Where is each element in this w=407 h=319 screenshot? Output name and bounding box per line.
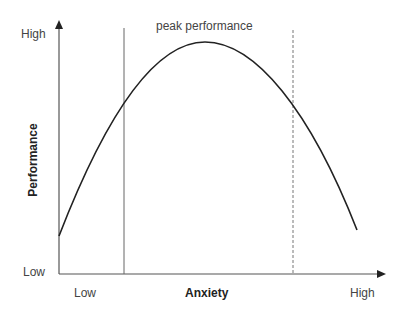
y-high-label: High xyxy=(21,27,46,41)
y-axis-arrow-icon xyxy=(55,20,63,29)
peak-performance-label: peak performance xyxy=(156,19,253,33)
performance-curve xyxy=(59,42,357,236)
y-low-label: Low xyxy=(23,265,45,279)
x-axis-arrow-icon xyxy=(377,270,386,278)
x-low-label: Low xyxy=(74,286,96,300)
y-axis-title: Performance xyxy=(26,123,40,196)
x-high-label: High xyxy=(350,286,375,300)
x-axis-title: Anxiety xyxy=(185,286,228,300)
chart-canvas xyxy=(0,0,407,319)
